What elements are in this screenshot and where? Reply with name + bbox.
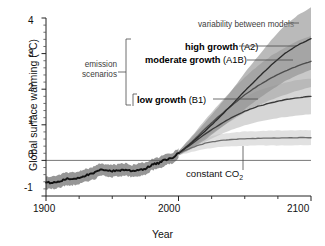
uncertainty-band-historical-observations <box>46 148 179 189</box>
emission-scenarios-bracket <box>126 39 131 105</box>
chart-canvas <box>0 0 325 246</box>
chart-figure: Global surface warming (°C) Year 4 3 2 1… <box>0 0 325 246</box>
b1-bracket-tick <box>133 94 137 106</box>
